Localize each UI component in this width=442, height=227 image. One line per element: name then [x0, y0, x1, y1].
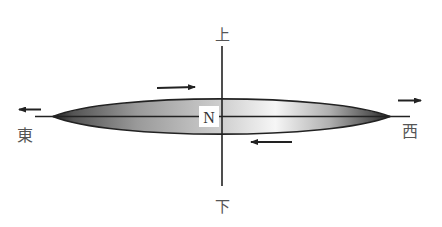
center-label-n: N	[203, 109, 215, 126]
label-west: 西	[402, 122, 418, 141]
label-east: 東	[17, 126, 33, 145]
label-top: 上	[215, 26, 230, 44]
rotation-arrow-top-icon	[157, 87, 195, 88]
label-bottom: 下	[215, 198, 230, 216]
diagram-canvas: N 上 下 東 西	[0, 0, 442, 227]
